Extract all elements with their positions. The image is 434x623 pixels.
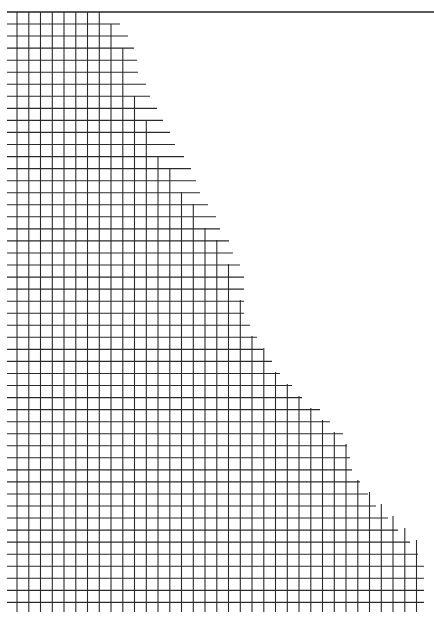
horizontal-grid-lines	[7, 24, 424, 602]
vertical-grid-lines	[17, 12, 417, 612]
grid-figure	[0, 0, 434, 623]
